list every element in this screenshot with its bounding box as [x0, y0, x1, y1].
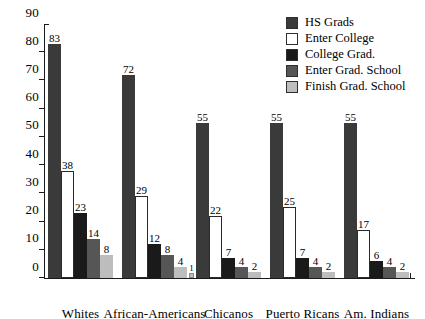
legend-item-label: Finish Grad. School: [305, 80, 405, 93]
legend-item-label: College Grad.: [305, 48, 375, 61]
legend-swatch-icon: [286, 49, 298, 61]
bar-group: 72291284: [122, 24, 187, 278]
y-axis-tick: [39, 136, 44, 137]
legend-item-label: Enter Grad. School: [305, 64, 401, 77]
x-axis-category-label: African-Americans: [103, 307, 205, 319]
y-axis-tick: [39, 192, 44, 193]
bar: 25: [283, 207, 296, 278]
x-axis-category-label: Whites: [62, 307, 99, 319]
bar-value-label: 25: [284, 196, 295, 207]
bar-value-label: 8: [104, 244, 110, 255]
legend-swatch-icon: [286, 65, 298, 77]
legend-item-label: HS Grads: [305, 16, 354, 29]
bar-value-label: 4: [387, 256, 393, 267]
bar-value-label: 83: [49, 33, 60, 44]
bar-value-label: 6: [374, 250, 380, 261]
y-axis-tick-label: 70: [26, 61, 39, 74]
y-axis-tick-label: 10: [26, 231, 39, 244]
bar: 4: [383, 267, 396, 278]
bar-value-label: 38: [62, 160, 73, 171]
bar-value-label: 22: [210, 205, 221, 216]
legend-swatch-icon: [286, 17, 298, 29]
bar: 29: [135, 196, 148, 278]
legend-item: College Grad.: [286, 48, 405, 61]
bar-value-label: 2: [252, 261, 258, 272]
bar-value-label: 12: [149, 233, 160, 244]
bar-value-label: 2: [400, 261, 406, 272]
bar-value-label: 55: [271, 112, 282, 123]
legend-swatch-icon: [286, 81, 298, 93]
bar-annotation-label: 1: [189, 264, 194, 273]
y-axis-tick: [39, 164, 44, 165]
x-axis-line: [44, 278, 415, 279]
bar-value-label: 4: [178, 256, 184, 267]
y-axis-tick-label: 20: [26, 203, 39, 216]
bar: 17: [357, 230, 370, 278]
legend-item: HS Grads: [286, 16, 405, 29]
y-axis-tick: [39, 108, 44, 109]
y-axis-tick: [39, 249, 44, 250]
bar: 8: [161, 255, 174, 278]
y-axis-tick-label: 40: [26, 146, 39, 159]
bar: 7: [222, 258, 235, 278]
legend-item: Finish Grad. School: [286, 80, 405, 93]
bar: 8: [100, 255, 113, 278]
legend-item: Enter College: [286, 32, 405, 45]
bar: 2: [396, 272, 409, 278]
bar-value-label: 29: [136, 185, 147, 196]
bar: 4: [174, 267, 187, 278]
y-axis-tick: [39, 51, 44, 52]
bar: 2: [248, 272, 261, 278]
legend-item-label: Enter College: [305, 32, 374, 45]
bar: 55: [270, 123, 283, 278]
bar-value-label: 55: [345, 112, 356, 123]
y-axis-tick: [39, 221, 44, 222]
y-axis-tick-label: 60: [26, 90, 39, 103]
bar: 83: [48, 44, 61, 278]
bar-group: 833823148: [48, 24, 113, 278]
bar: 72: [122, 75, 135, 278]
y-axis-tick: [39, 277, 44, 278]
bar-value-label: 17: [358, 219, 369, 230]
bar-value-label: 72: [123, 64, 134, 75]
bar-value-label: 4: [313, 256, 319, 267]
bar: 38: [61, 171, 74, 278]
bar-value-label: 2: [326, 261, 332, 272]
bar-value-label: 7: [300, 247, 306, 258]
bar-value-label: 55: [197, 112, 208, 123]
y-axis-tick-label: 50: [26, 118, 39, 131]
bar: 7: [296, 258, 309, 278]
bar-chart: 0102030405060708090833823148Whites722912…: [0, 0, 425, 319]
bar-value-label: 8: [165, 244, 171, 255]
y-axis-tick: [39, 79, 44, 80]
bar: 4: [235, 267, 248, 278]
y-axis-tick-label: 90: [26, 5, 39, 18]
chart-legend: HS GradsEnter CollegeCollege Grad.Enter …: [286, 16, 405, 93]
bar: 22: [209, 216, 222, 278]
bar-value-label: 4: [239, 256, 245, 267]
bar: 2: [322, 272, 335, 278]
legend-item: Enter Grad. School: [286, 64, 405, 77]
bar: 6: [370, 261, 383, 278]
bar-value-label: 23: [75, 202, 86, 213]
bar-group: 5522742: [196, 24, 261, 278]
bar-annotation-marker: 1: [189, 273, 194, 278]
y-axis-tick-label: 0: [32, 259, 39, 272]
x-axis-category-label: Puerto Ricans: [266, 307, 340, 319]
bar-value-label: 7: [226, 247, 232, 258]
bar: 14: [87, 239, 100, 279]
bar: 55: [196, 123, 209, 278]
bar: 4: [309, 267, 322, 278]
y-axis-tick-label: 80: [26, 33, 39, 46]
legend-swatch-icon: [286, 33, 298, 45]
x-axis-category-label: Chicanos: [204, 307, 253, 319]
x-axis-category-label: Am. Indians: [344, 307, 409, 319]
bar: 23: [74, 213, 87, 278]
y-axis-tick-label: 30: [26, 174, 39, 187]
bar-value-label: 14: [88, 228, 99, 239]
bar: 12: [148, 244, 161, 278]
bar: 55: [344, 123, 357, 278]
